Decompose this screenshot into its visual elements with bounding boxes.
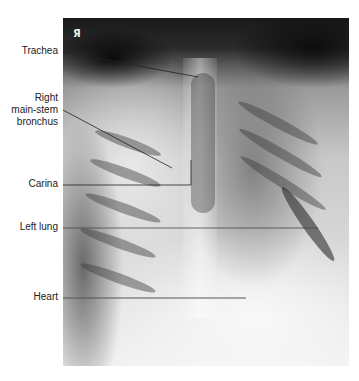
label-carina: Carina	[0, 178, 58, 190]
rib	[89, 155, 163, 190]
label-line: Right	[0, 92, 58, 104]
airway-shadow	[191, 73, 215, 213]
rib	[84, 190, 163, 227]
label-right-main-stem-bronchus: Right main-stem bronchus	[0, 92, 58, 128]
rib	[79, 225, 158, 262]
label-line: bronchus	[0, 116, 58, 128]
rib	[79, 260, 158, 297]
rib	[237, 125, 324, 181]
label-trachea: Trachea	[0, 45, 58, 57]
orientation-marker: Я	[73, 28, 81, 39]
label-line: main-stem	[0, 104, 58, 116]
rib	[93, 126, 162, 159]
label-heart: Heart	[0, 291, 58, 303]
chest-xray-image: Я	[63, 18, 349, 366]
rib	[236, 97, 320, 148]
rib	[238, 152, 328, 213]
label-left-lung: Left lung	[0, 221, 58, 233]
